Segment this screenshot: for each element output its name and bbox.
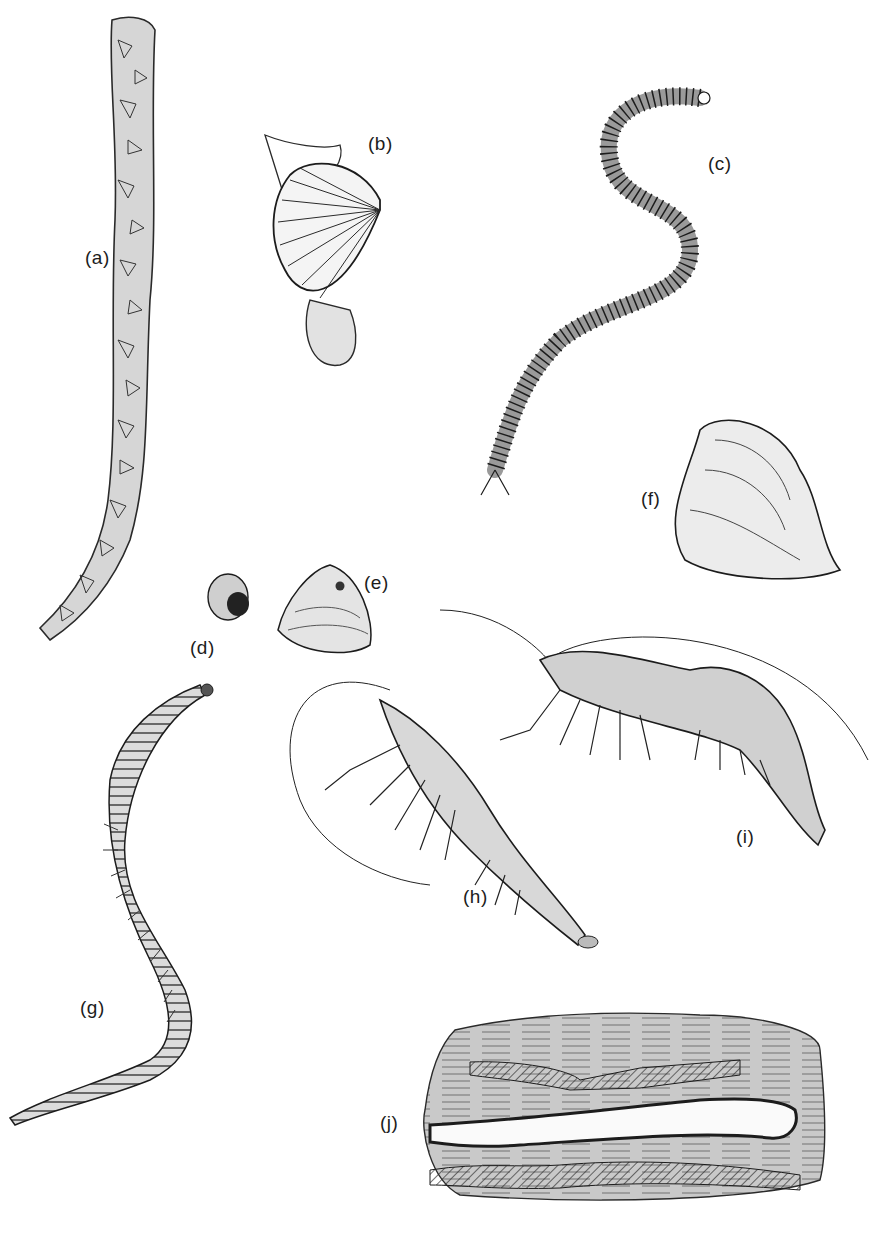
figure-f-oyster	[675, 420, 840, 578]
figure-d-periwinkle	[208, 574, 249, 620]
figure-label-a: (a)	[85, 247, 110, 269]
figure-i-shrimp	[440, 610, 868, 845]
illustration-plate: (a) (b) (c) (d) (e) (f) (g) (h) (i) (j)	[0, 0, 877, 1236]
figure-j-shipworm-wood	[424, 1013, 825, 1200]
specimen-drawings	[0, 0, 877, 1236]
figure-label-f: (f)	[641, 488, 660, 510]
figure-a-barnacle-stem	[40, 17, 155, 640]
figure-label-g: (g)	[80, 997, 105, 1019]
figure-label-e: (e)	[364, 572, 389, 594]
figure-c-ragworm	[481, 92, 710, 495]
figure-label-i: (i)	[736, 826, 754, 848]
figure-label-d: (d)	[190, 637, 215, 659]
figure-label-h: (h)	[463, 886, 488, 908]
figure-e-bivalve	[278, 565, 371, 653]
figure-g-lugworm	[10, 684, 213, 1125]
figure-b-scallop	[265, 135, 380, 365]
figure-h-prawn	[290, 682, 598, 948]
figure-label-b: (b)	[368, 133, 393, 155]
figure-label-j: (j)	[380, 1112, 398, 1134]
figure-label-c: (c)	[708, 153, 732, 175]
